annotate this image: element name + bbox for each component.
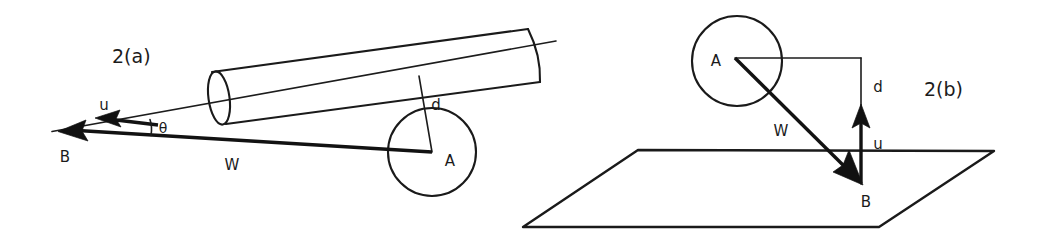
label-B: B xyxy=(861,193,871,211)
vector-w-arrowhead xyxy=(833,150,863,185)
segment-d xyxy=(419,76,432,152)
label-theta: θ xyxy=(159,120,168,136)
ground-plane xyxy=(523,150,994,227)
cylinder-right-end-arc xyxy=(528,29,540,82)
label-B: B xyxy=(60,148,70,166)
label-W: W xyxy=(774,122,789,140)
cylinder-top-edge xyxy=(212,29,528,72)
caption-2a: 2(a) xyxy=(112,45,151,67)
label-d: d xyxy=(873,78,883,96)
figure-canvas: u B θ W d A 2(a) xyxy=(0,0,1045,243)
cylinder-tube xyxy=(205,29,540,126)
angle-theta-arc xyxy=(150,120,152,136)
label-u: u xyxy=(873,135,883,153)
panel-2b: A d W u B 2(b) xyxy=(523,16,994,227)
label-A: A xyxy=(711,52,722,70)
figure-container: u B θ W d A 2(a) xyxy=(0,0,1045,243)
label-u: u xyxy=(99,96,109,114)
vector-w xyxy=(735,58,863,185)
cylinder-left-end-ellipse xyxy=(205,70,233,126)
vector-w-shaft xyxy=(78,131,432,153)
label-d: d xyxy=(431,96,441,114)
label-W: W xyxy=(225,156,240,174)
panel-2a: u B θ W d A 2(a) xyxy=(52,29,556,196)
cylinder-bottom-edge xyxy=(226,82,540,124)
caption-2b: 2(b) xyxy=(924,78,963,100)
label-A: A xyxy=(445,152,456,170)
